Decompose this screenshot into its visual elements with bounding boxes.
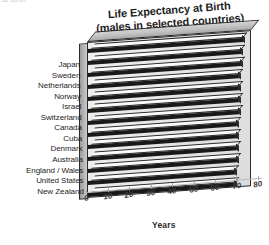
bar-end-cap [240,59,243,67]
x-tick-label: 60 [210,183,220,193]
x-axis-label: Years [152,220,176,230]
category-label-japan: Japan [0,60,80,69]
bar-end-cap [238,83,241,91]
category-label-canada: Canada [2,123,82,132]
life-expectancy-bar-chart: Life Expectancy at Birth (males in selec… [0,0,269,245]
bar-end-cap [236,156,239,164]
category-label-united-states: United States [4,176,84,185]
category-label-norway: Norway [1,92,81,101]
bar-end-cap [240,47,243,55]
x-tick-label: 50 [189,184,199,194]
x-tick-label: 0 [84,193,89,203]
category-label-new-zealand: New Zealand [4,187,84,196]
category-label-denmark: Denmark [3,144,83,153]
bar-series-container [88,30,251,198]
bar-end-cap [236,132,239,140]
bar-end-cap [238,71,241,79]
category-label-netherlands: Netherlands [1,81,81,90]
bar-end-cap [238,95,241,103]
category-label-israel: Israel [1,102,81,111]
x-tick-label: 40 [167,186,177,196]
bar-end-cap [236,144,239,152]
x-tick-label: 80 [253,179,263,189]
bar-end-cap [236,120,239,128]
category-label-england-wales: England / Wales [3,166,83,175]
category-axis-labels: JapanSwedenNetherlandsNorwayIsraelSwitze… [0,60,80,200]
x-tick-label: 10 [103,191,113,201]
x-tick-label: 70 [232,181,242,191]
category-label-sweden: Sweden [0,71,80,80]
bar-end-cap [242,35,245,43]
x-tick-label: 30 [146,188,156,198]
x-tick-label: 20 [124,190,134,200]
category-label-switzerland: Switzerland [2,113,82,122]
bar-end-cap [238,107,241,115]
category-label-cuba: Cuba [2,134,82,143]
category-label-australia: Australia [3,155,83,164]
